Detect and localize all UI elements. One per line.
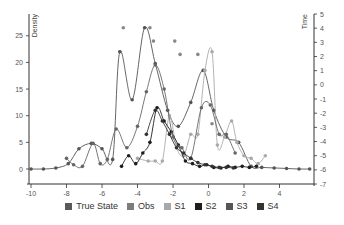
data-point [180,146,184,150]
data-point [308,167,312,171]
data-point [178,53,182,57]
left-tick-label: 25 [15,32,23,39]
x-tick-label: 2 [242,190,246,197]
data-point [111,158,115,162]
x-tick-label: -2 [170,190,176,197]
legend-label: S1 [175,201,186,211]
left-tick-label: 0 [19,166,23,173]
data-point [196,53,200,57]
axes: 0510152025Density543210-1-2-3-4-5-6-7Tim… [15,11,326,198]
x-tick-label: 0 [207,190,211,197]
data-point [189,133,193,137]
data-point [65,157,69,161]
data-point [217,133,221,137]
left-tick-label: 5 [19,139,23,146]
data-point [198,165,202,169]
data-point [145,133,149,137]
data-point [230,119,234,123]
series-layer [29,26,311,171]
data-point [189,101,193,105]
data-point [191,162,195,166]
series-line-s3 [67,65,236,168]
data-point [285,167,289,171]
left-axis-title: Density [31,14,39,38]
data-point [54,166,58,170]
right-tick-label: 2 [320,53,324,60]
data-point [42,167,46,171]
data-point [77,147,81,151]
data-point [141,151,145,155]
legend-swatch-obs [127,203,134,210]
data-point [210,50,214,54]
right-tick-label: -7 [320,181,326,188]
legend-swatch-s2 [195,203,202,210]
right-tick-label: -2 [320,110,326,117]
right-tick-label: -5 [320,152,326,159]
left-tick-label: 15 [15,86,23,93]
legend-item-true-state[interactable]: True State [65,201,118,211]
legend-label: S3 [237,201,248,211]
legend: True State Obs S1 S2 S3 S4 [0,201,344,211]
right-tick-label: -6 [320,166,326,173]
x-tick-label: 4 [278,190,282,197]
legend-swatch-s3 [226,203,233,210]
data-point [255,165,259,169]
chart-area: 0510152025Density543210-1-2-3-4-5-6-7Tim… [0,0,344,225]
data-point [184,159,188,163]
x-tick-label: -6 [99,190,105,197]
data-point [81,165,85,169]
right-tick-label: 1 [320,67,324,74]
data-point [272,166,276,170]
data-point [260,166,264,170]
legend-item-s3[interactable]: S3 [226,201,248,211]
data-point [148,141,152,145]
data-point [264,154,268,158]
data-point [233,151,237,155]
legend-item-s2[interactable]: S2 [195,201,217,211]
x-tick-label: -8 [63,190,69,197]
data-point [66,162,70,166]
data-point [153,63,157,67]
data-point [235,141,239,145]
data-point [162,87,166,91]
data-point [120,165,124,169]
left-tick-label: 20 [15,59,23,66]
data-point [134,162,138,166]
legend-item-s4[interactable]: S4 [257,201,279,211]
data-point [173,39,177,43]
data-point [153,159,157,163]
data-point [224,166,228,170]
data-point [210,165,214,169]
right-tick-label: 4 [320,25,324,32]
series-s4 [145,109,236,170]
legend-label: True State [76,201,118,211]
data-point [177,125,181,129]
data-point [297,167,301,171]
legend-label: Obs [138,201,155,211]
data-point [98,162,102,166]
data-point [145,90,149,94]
x-tick-label: -10 [26,190,36,197]
data-point [242,154,246,158]
data-point [91,142,95,146]
series-true-state [29,26,311,171]
data-point [130,98,134,102]
right-tick-label: 0 [320,81,324,88]
right-tick-label: -3 [320,124,326,131]
data-point [148,26,152,30]
data-point [249,157,253,161]
legend-item-s1[interactable]: S1 [164,201,186,211]
legend-swatch-s1 [164,203,171,210]
right-axis-title: Time [301,14,308,29]
series-s3 [65,63,237,168]
data-point [143,26,147,30]
data-point [72,163,76,167]
data-point [216,143,220,147]
legend-swatch-s4 [257,203,264,210]
data-point [127,154,131,158]
legend-item-obs[interactable]: Obs [127,201,155,211]
data-point [125,146,129,150]
legend-swatch-true-state [65,203,72,210]
left-tick-label: 10 [15,112,23,119]
legend-label: S4 [268,201,279,211]
